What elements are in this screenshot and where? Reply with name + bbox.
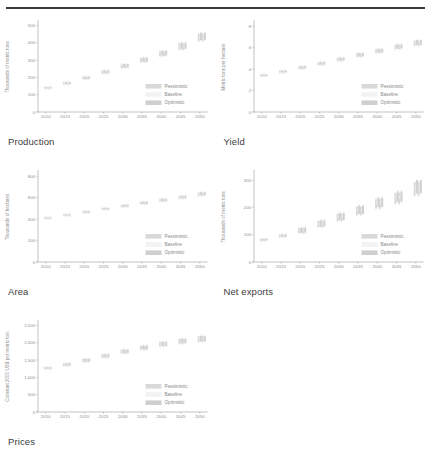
x-tick-label: 2010 bbox=[256, 264, 266, 269]
x-tick-label: 2050 bbox=[195, 414, 205, 419]
legend-item-baseline-label: Baseline bbox=[165, 392, 183, 397]
chart-row-3: 05001,0001,5002,0002,5002010201520202025… bbox=[0, 312, 431, 461]
x-tick-label: 2025 bbox=[314, 264, 324, 269]
x-tick-label: 2025 bbox=[314, 114, 324, 119]
y-tick-label: 0 bbox=[33, 110, 36, 115]
plot-production: 0100200300400500201020152020202520302035… bbox=[0, 12, 216, 134]
data-marker bbox=[140, 56, 144, 63]
data-marker bbox=[140, 344, 144, 351]
data-marker bbox=[125, 348, 129, 354]
y-tick-label: 200 bbox=[28, 238, 36, 243]
data-marker bbox=[178, 337, 182, 344]
x-tick-label: 2015 bbox=[276, 264, 286, 269]
y-tick-label: 400 bbox=[28, 40, 36, 45]
data-marker bbox=[375, 47, 379, 54]
data-marker bbox=[259, 238, 263, 243]
data-marker bbox=[63, 81, 67, 86]
legend-item-optimistic-swatch bbox=[146, 400, 162, 405]
panel-caption-area: Area bbox=[8, 286, 28, 297]
data-marker bbox=[398, 43, 402, 50]
x-tick-label: 2020 bbox=[79, 114, 89, 119]
y-tick-label: 1,500 bbox=[24, 358, 36, 363]
chart-yield[interactable]: 0.2.4.6.82010201520202025203020352040204… bbox=[216, 12, 431, 134]
panel-caption-production: Production bbox=[8, 136, 54, 147]
data-marker bbox=[413, 179, 417, 197]
y-tick-label: 100 bbox=[243, 232, 251, 237]
data-marker bbox=[86, 210, 90, 214]
data-marker bbox=[105, 69, 109, 75]
data-marker bbox=[86, 75, 90, 80]
data-marker bbox=[321, 61, 325, 66]
legend: PessimisticBaselineOptimistic bbox=[146, 384, 189, 405]
legend-item-baseline-swatch bbox=[361, 92, 377, 97]
panel-caption-net-exports: Net exports bbox=[224, 286, 274, 297]
legend: PessimisticBaselineOptimistic bbox=[361, 234, 404, 255]
legend: PessimisticBaselineOptimistic bbox=[361, 84, 404, 105]
x-tick-label: 2030 bbox=[118, 414, 128, 419]
data-marker bbox=[47, 86, 51, 90]
chart-production[interactable]: 0100200300400500201020152020202520302035… bbox=[0, 12, 216, 134]
x-tick-label: 2010 bbox=[256, 114, 266, 119]
data-marker bbox=[355, 52, 359, 58]
data-marker bbox=[105, 353, 109, 359]
y-tick-label: 800 bbox=[28, 174, 36, 179]
plot-net_exports: 0100200300201020152020202520302035204020… bbox=[216, 162, 431, 284]
x-tick-label: 2050 bbox=[410, 264, 420, 269]
data-marker bbox=[159, 340, 163, 347]
y-axis-title: Thousands of metric tons bbox=[220, 191, 225, 243]
data-marker bbox=[394, 190, 398, 205]
data-marker bbox=[140, 200, 144, 205]
data-marker bbox=[336, 212, 340, 223]
x-tick-label: 2050 bbox=[410, 114, 420, 119]
x-tick-label: 2045 bbox=[176, 264, 186, 269]
y-tick-label: 100 bbox=[28, 92, 36, 97]
data-marker bbox=[101, 69, 105, 75]
legend-item-pessimistic-swatch bbox=[361, 234, 377, 239]
legend-item-optimistic-label: Optimistic bbox=[165, 400, 186, 405]
data-marker bbox=[178, 41, 182, 51]
data-marker bbox=[375, 196, 379, 210]
legend: PessimisticBaselineOptimistic bbox=[146, 234, 189, 255]
data-marker bbox=[398, 190, 402, 205]
legend-item-optimistic-swatch bbox=[146, 100, 162, 105]
x-tick-label: 2025 bbox=[99, 414, 109, 419]
data-marker bbox=[182, 41, 186, 51]
chart-area[interactable]: 0200400600800201020152020202520302035204… bbox=[0, 162, 216, 284]
chart-prices[interactable]: 05001,0001,5002,0002,5002010201520202025… bbox=[0, 312, 216, 434]
data-marker bbox=[182, 337, 186, 344]
data-marker bbox=[298, 226, 302, 234]
panel-net-exports: 0100200300201020152020202520302035204020… bbox=[216, 162, 431, 312]
legend-item-baseline-swatch bbox=[146, 392, 162, 397]
chart-net-exports[interactable]: 0100200300201020152020202520302035204020… bbox=[216, 162, 431, 284]
data-marker bbox=[67, 81, 71, 86]
data-marker bbox=[125, 203, 129, 208]
y-tick-label: 200 bbox=[243, 205, 251, 210]
data-marker bbox=[359, 52, 363, 58]
legend-item-optimistic-swatch bbox=[146, 250, 162, 255]
data-marker bbox=[202, 191, 206, 197]
data-marker bbox=[202, 31, 206, 42]
legend-item-baseline-label: Baseline bbox=[380, 242, 398, 247]
y-tick-label: 0 bbox=[248, 110, 251, 115]
legend-item-optimistic-label: Optimistic bbox=[165, 100, 186, 105]
y-tick-label: 2,500 bbox=[24, 323, 36, 328]
data-marker bbox=[379, 47, 383, 54]
data-marker bbox=[121, 348, 125, 354]
x-tick-label: 2035 bbox=[353, 264, 363, 269]
x-tick-label: 2015 bbox=[60, 414, 70, 419]
data-marker bbox=[44, 216, 48, 220]
data-marker bbox=[198, 335, 202, 343]
legend-item-baseline-label: Baseline bbox=[165, 242, 183, 247]
x-tick-label: 2030 bbox=[118, 114, 128, 119]
data-marker bbox=[301, 226, 305, 234]
panel-caption-yield: Yield bbox=[224, 136, 245, 147]
x-tick-label: 2045 bbox=[176, 414, 186, 419]
x-tick-label: 2025 bbox=[99, 114, 109, 119]
x-tick-label: 2040 bbox=[372, 264, 382, 269]
x-tick-label: 2010 bbox=[41, 414, 51, 419]
x-tick-label: 2015 bbox=[60, 114, 70, 119]
data-marker bbox=[121, 63, 125, 69]
data-marker bbox=[259, 73, 263, 77]
x-tick-label: 2045 bbox=[391, 264, 401, 269]
data-marker bbox=[394, 43, 398, 50]
